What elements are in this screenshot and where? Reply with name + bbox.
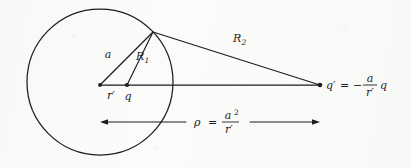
label-minus-sign: − <box>353 79 362 92</box>
charge-q-dot <box>125 83 129 87</box>
label-equals: = <box>340 79 349 92</box>
diagram-canvas: a R 1 R 2 r′ q q′ = − a r′ q ρ = a <box>0 0 411 168</box>
label-R2-subscript: 2 <box>241 38 247 47</box>
sphere-center-dot <box>98 83 102 87</box>
equation-image-charge: q′ = − a r′ q <box>326 72 387 99</box>
label-R1-base: R <box>135 50 144 63</box>
label-r-prime: r′ <box>107 89 115 102</box>
image-charge-diagram: a R 1 R 2 r′ q q′ = − a r′ q ρ = a <box>0 0 411 168</box>
label-rho: ρ <box>193 116 201 129</box>
label-R1: R 1 <box>135 50 149 65</box>
label-equation-trailing-q: q <box>380 79 387 92</box>
sphere-circle <box>27 9 173 155</box>
rho-arrowhead-left <box>100 119 108 125</box>
label-q: q <box>124 90 131 103</box>
label-rho-denominator-r-prime: r′ <box>225 123 233 136</box>
equation-rho: ρ = a 2 r′ <box>193 108 239 136</box>
label-R2-base: R <box>232 32 241 45</box>
label-R1-subscript: 1 <box>145 56 150 65</box>
charge-q-prime-dot <box>318 83 323 88</box>
label-fraction-numerator-a: a <box>367 72 374 85</box>
label-rho-numerator-exponent: 2 <box>234 108 239 117</box>
label-q-prime: q′ <box>326 79 336 92</box>
label-R2: R 2 <box>232 32 247 47</box>
label-fraction-denominator-r-prime: r′ <box>366 86 374 99</box>
rho-arrowhead-right <box>312 119 320 125</box>
label-rho-numerator-a: a <box>225 109 232 122</box>
label-a: a <box>105 48 112 61</box>
label-rho-equals: = <box>208 116 217 129</box>
